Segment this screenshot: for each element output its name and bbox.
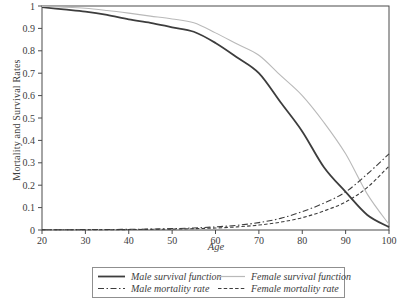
x-tick-label: 50 [167, 235, 177, 246]
plot-area: 203040506070809010000.10.20.30.40.50.60.… [0, 0, 401, 262]
y-tick-label: 0.4 [23, 135, 36, 146]
female-mortality-line-sample-icon [218, 284, 245, 293]
legend: Male survival function Female survival f… [92, 267, 345, 298]
y-tick-label: 0.6 [23, 90, 36, 101]
y-tick-label: 0.9 [23, 23, 36, 34]
legend-item-female-survival-function: Female survival function [218, 271, 342, 282]
plot-border [42, 6, 389, 230]
x-tick-label: 100 [382, 235, 397, 246]
x-tick-label: 80 [297, 235, 307, 246]
chart-figure: 203040506070809010000.10.20.30.40.50.60.… [0, 0, 401, 305]
y-tick-label: 0.3 [23, 157, 36, 168]
male-mortality-line-sample-icon [98, 284, 125, 293]
legend-item-female-mortality-rate: Female mortality rate [218, 283, 342, 294]
y-tick-label: 0.2 [23, 180, 36, 191]
y-tick-label: 0 [30, 225, 35, 236]
y-tick-label: 1 [30, 1, 35, 12]
legend-label: Male mortality rate [131, 283, 209, 294]
series-line-female-survival-function [42, 6, 389, 224]
x-tick-label: 40 [124, 235, 134, 246]
x-tick-label: 20 [37, 235, 47, 246]
x-tick-label: 30 [80, 235, 90, 246]
y-tick-label: 0.1 [23, 202, 36, 213]
y-tick-label: 0.8 [23, 45, 36, 56]
female-survival-line-sample-icon [218, 272, 245, 281]
x-tick-label: 70 [254, 235, 264, 246]
x-tick-label: 90 [341, 235, 351, 246]
series-line-female-mortality-rate [42, 166, 389, 230]
series-line-male-survival-function [42, 7, 389, 227]
series-line-male-mortality-rate [42, 154, 389, 230]
legend-label: Female mortality rate [251, 283, 339, 294]
legend-label: Male survival function [131, 271, 222, 282]
y-axis-title: Mortality and Survival Rates [11, 59, 22, 180]
x-axis-title: Age [208, 241, 224, 252]
male-survival-line-sample-icon [98, 272, 125, 281]
legend-label: Female survival function [251, 271, 351, 282]
y-tick-label: 0.7 [23, 68, 36, 79]
legend-item-male-survival-function: Male survival function [98, 271, 218, 282]
y-tick-label: 0.5 [23, 113, 36, 124]
legend-item-male-mortality-rate: Male mortality rate [98, 283, 218, 294]
